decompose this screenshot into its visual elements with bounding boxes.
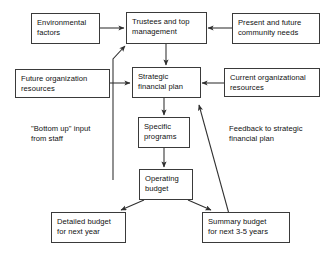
annotation-feedback-note: Feedback to strategic financial plan	[229, 124, 303, 144]
node-operating-budget[interactable]: Operating budget	[139, 169, 193, 200]
node-line-2: management	[132, 27, 201, 37]
annotation-line-2: from staff	[31, 134, 90, 144]
node-summary-budget[interactable]: Summary budget for next 3-5 years	[202, 212, 290, 243]
node-line-2: financial plan	[138, 82, 195, 92]
annotation-line-2: financial plan	[229, 134, 303, 144]
annotation-bottom-up-input: "Bottom up" input from staff	[31, 124, 90, 144]
node-line-1: Summary budget	[208, 217, 284, 227]
node-line-2: community needs	[238, 28, 314, 38]
node-line-1: Detailed budget	[57, 217, 120, 227]
node-line-1: Trustees and top	[132, 17, 201, 27]
node-trustees-top-management[interactable]: Trustees and top management	[126, 12, 207, 44]
node-strategic-financial-plan[interactable]: Strategic financial plan	[132, 67, 201, 98]
node-detailed-budget[interactable]: Detailed budget for next year	[51, 212, 126, 243]
node-line-1: Current organizational	[230, 73, 314, 83]
node-line-1: Future organization	[21, 74, 104, 84]
flowchart-canvas: Environmental factors Trustees and top m…	[0, 0, 332, 255]
node-line-1: Specific	[144, 122, 184, 132]
node-future-organization-resources[interactable]: Future organization resources	[15, 69, 110, 98]
edge-feedback-to-strategic	[199, 105, 229, 214]
annotation-line-1: Feedback to strategic	[229, 124, 303, 134]
node-environmental-factors[interactable]: Environmental factors	[31, 13, 100, 44]
node-present-future-community-needs[interactable]: Present and future community needs	[232, 13, 320, 44]
annotation-line-1: "Bottom up" input	[31, 124, 90, 134]
node-line-2: programs	[144, 132, 184, 142]
node-line-1: Operating	[145, 174, 187, 184]
node-line-2: resources	[21, 84, 104, 94]
node-line-2: for next year	[57, 227, 120, 237]
edge-operating-to-detailed	[121, 200, 144, 210]
node-current-organizational-resources[interactable]: Current organizational resources	[224, 68, 320, 97]
node-line-1: Strategic	[138, 72, 195, 82]
node-specific-programs[interactable]: Specific programs	[138, 117, 190, 148]
node-line-1: Present and future	[238, 18, 314, 28]
edge-operating-to-summary	[188, 200, 211, 210]
edge-bottom-up-to-trustees	[113, 46, 125, 180]
node-line-2: resources	[230, 83, 314, 93]
node-line-2: for next 3-5 years	[208, 227, 284, 237]
node-line-1: Environmental	[37, 18, 94, 28]
node-line-2: budget	[145, 184, 187, 194]
node-line-2: factors	[37, 28, 94, 38]
